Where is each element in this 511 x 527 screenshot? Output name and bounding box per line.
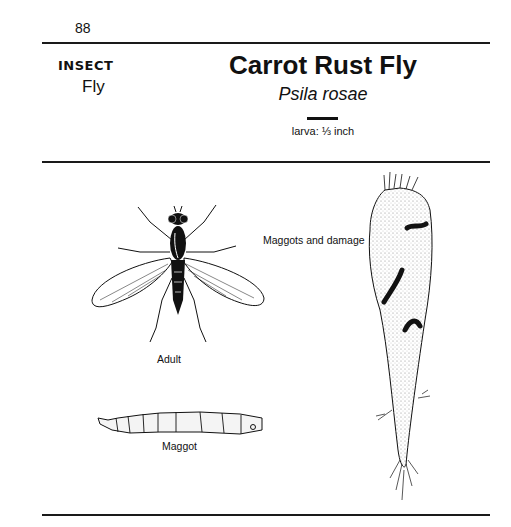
bottom-rule (42, 514, 490, 516)
caption-carrot: Maggots and damage (263, 234, 365, 246)
damaged-carrot-illustration-icon (0, 0, 511, 527)
